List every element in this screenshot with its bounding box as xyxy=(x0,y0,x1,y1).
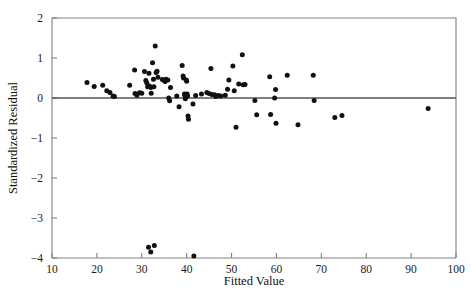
data-point xyxy=(193,93,198,98)
data-point xyxy=(295,122,300,127)
data-point xyxy=(85,80,90,85)
data-point xyxy=(174,94,179,99)
x-tick-label: 90 xyxy=(405,263,417,275)
data-point xyxy=(155,75,160,80)
data-point xyxy=(127,83,132,88)
data-point xyxy=(146,245,151,250)
data-point xyxy=(274,121,279,126)
y-tick-label: 0 xyxy=(37,92,43,104)
data-point xyxy=(252,98,257,103)
x-tick-label: 40 xyxy=(181,263,193,275)
figure-caption-clipped xyxy=(0,297,471,306)
data-point xyxy=(426,106,431,111)
data-point xyxy=(167,98,172,103)
data-point xyxy=(223,93,228,98)
data-point xyxy=(152,243,157,248)
data-point xyxy=(234,125,239,130)
data-point xyxy=(151,77,156,82)
x-tick-label: 30 xyxy=(136,263,148,275)
data-point xyxy=(155,69,160,74)
data-point xyxy=(218,94,223,99)
y-tick-label: 2 xyxy=(37,12,43,24)
data-point xyxy=(332,115,337,120)
data-point xyxy=(191,254,196,259)
scatter-plot-canvas: 102030405060708090100 210−1−2−3−4 Fitted… xyxy=(0,0,471,306)
data-point xyxy=(236,82,241,87)
data-point xyxy=(112,94,117,99)
data-point xyxy=(311,73,316,78)
x-tick-label: 10 xyxy=(46,263,58,275)
residual-plot-figure: 102030405060708090100 210−1−2−3−4 Fitted… xyxy=(0,0,471,306)
data-point xyxy=(148,250,153,255)
data-point xyxy=(153,44,158,49)
data-point xyxy=(149,91,154,96)
data-point xyxy=(312,98,317,103)
plot-frame xyxy=(52,18,456,258)
x-tick-label: 20 xyxy=(91,263,103,275)
data-point xyxy=(240,52,245,57)
data-point xyxy=(151,84,156,89)
data-point xyxy=(208,66,213,71)
y-tick-label: −2 xyxy=(31,172,43,184)
data-point xyxy=(146,71,151,76)
data-point xyxy=(273,87,278,92)
data-point xyxy=(226,78,231,83)
x-tick-label: 80 xyxy=(360,263,372,275)
data-point xyxy=(339,113,344,118)
data-point xyxy=(92,84,97,89)
data-point xyxy=(268,112,273,117)
data-point xyxy=(165,78,170,83)
data-point xyxy=(150,60,155,65)
data-point xyxy=(184,79,189,84)
data-point xyxy=(225,87,230,92)
data-point-group xyxy=(85,44,431,259)
data-point xyxy=(142,69,147,74)
data-point xyxy=(199,92,204,97)
y-tick-label: −1 xyxy=(31,132,43,144)
axis-tick-marks xyxy=(52,18,456,258)
data-point xyxy=(243,82,248,87)
data-point xyxy=(285,73,290,78)
x-tick-label: 100 xyxy=(447,263,465,275)
y-tick-label: 1 xyxy=(37,52,43,64)
data-point xyxy=(168,85,173,90)
x-tick-label: 70 xyxy=(316,263,328,275)
y-axis-tick-labels: 210−1−2−3−4 xyxy=(31,12,44,264)
data-point xyxy=(232,88,237,93)
data-point xyxy=(272,96,277,101)
y-tick-label: −3 xyxy=(31,212,43,224)
data-point xyxy=(186,117,191,122)
data-point xyxy=(132,68,137,73)
data-point xyxy=(267,74,272,79)
data-point xyxy=(230,64,235,69)
data-point xyxy=(185,94,190,99)
data-point xyxy=(177,104,182,109)
y-tick-label: −4 xyxy=(31,252,43,264)
data-point xyxy=(180,63,185,68)
data-point xyxy=(254,112,259,117)
x-axis-title: Fitted Value xyxy=(224,274,285,288)
data-point xyxy=(100,83,105,88)
data-point xyxy=(190,102,195,107)
data-point xyxy=(139,91,144,96)
y-axis-title: Standardized Residual xyxy=(6,81,20,194)
